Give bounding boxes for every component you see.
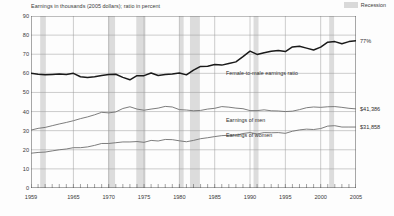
x-tick-label: 1980 bbox=[173, 194, 185, 200]
x-tick-label: 1985 bbox=[208, 194, 220, 200]
y-tick-label: 20 bbox=[3, 147, 29, 153]
x-axis-ticks: 1959196519701975198019851990199520002005 bbox=[31, 194, 356, 206]
x-tick-label: 2000 bbox=[314, 194, 326, 200]
recession-swatch-icon bbox=[344, 2, 358, 8]
y-tick-label: 80 bbox=[3, 32, 29, 38]
y-tick-label: 0 bbox=[3, 185, 29, 191]
recession-band bbox=[108, 16, 115, 188]
y-tick-label: 70 bbox=[3, 51, 29, 57]
x-tick-label: 1965 bbox=[67, 194, 79, 200]
y-tick-label: 90 bbox=[3, 13, 29, 19]
x-tick-label: 2005 bbox=[350, 194, 362, 200]
y-tick-label: 50 bbox=[3, 89, 29, 95]
recession-band bbox=[179, 16, 183, 188]
plot-svg bbox=[31, 16, 356, 188]
y-tick-label: 40 bbox=[3, 109, 29, 115]
x-tick-label: 1995 bbox=[279, 194, 291, 200]
x-tick-label: 1990 bbox=[244, 194, 256, 200]
legend: Recession bbox=[344, 2, 386, 8]
recession-band bbox=[190, 16, 200, 188]
y-tick-label: 60 bbox=[3, 70, 29, 76]
series-label-men: Earnings of men bbox=[226, 117, 265, 123]
recession-band bbox=[40, 16, 46, 188]
y-tick-label: 30 bbox=[3, 128, 29, 134]
plot-area bbox=[31, 16, 356, 188]
y-tick-label: 10 bbox=[3, 166, 29, 172]
end-label-women: $31,858 bbox=[360, 124, 380, 130]
x-tick-label: 1975 bbox=[138, 194, 150, 200]
legend-label-recession: Recession bbox=[361, 2, 386, 8]
recession-band bbox=[254, 16, 259, 188]
units-note: Earnings in thousands (2005 dollars); ra… bbox=[31, 3, 160, 9]
y-axis-ticks: 0102030405060708090 bbox=[3, 16, 29, 188]
series-label-ratio: Female-to-male earnings ratio bbox=[226, 70, 298, 76]
end-label-men: $41,386 bbox=[360, 106, 380, 112]
series-label-women: Earnings of women bbox=[226, 132, 272, 138]
x-tick-label: 1970 bbox=[102, 194, 114, 200]
earnings-ratio-chart: Earnings in thousands (2005 dollars); ra… bbox=[0, 0, 394, 216]
end-label-ratio: 77% bbox=[360, 38, 371, 44]
x-tick-label: 1959 bbox=[25, 194, 37, 200]
